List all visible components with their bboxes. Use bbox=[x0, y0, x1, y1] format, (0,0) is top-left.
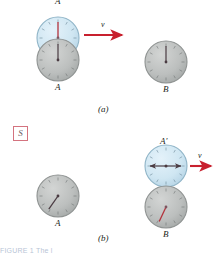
clock-label-a-prime: A' bbox=[160, 136, 167, 146]
clock-label-a-top: A bbox=[55, 0, 61, 6]
clock-label-b-bottom: B bbox=[163, 229, 169, 239]
caption-text: FIGURE 1 The l bbox=[0, 247, 213, 254]
velocity-label-a: v bbox=[101, 20, 105, 29]
panel-label-a: (a) bbox=[98, 104, 109, 114]
rest-clock-b-bottom bbox=[145, 186, 187, 228]
physics-figure-clocks: A v A B (a) S A' v A B (b) FIGURE 1 The … bbox=[0, 0, 213, 254]
panel-label-b: (b) bbox=[98, 233, 109, 243]
moving-clock-a-prime bbox=[145, 145, 187, 187]
clock-label-a-rest: A bbox=[55, 82, 61, 92]
clock-label-b-rest: B bbox=[163, 84, 169, 94]
rest-clock-a-bottom bbox=[37, 175, 79, 217]
figure-canvas bbox=[0, 0, 213, 254]
rest-clock-a bbox=[37, 39, 79, 81]
velocity-label-b: v bbox=[198, 151, 202, 160]
clock-label-a-bottom: A bbox=[55, 218, 61, 228]
reference-frame-badge-s: S bbox=[13, 126, 28, 141]
rest-clock-b bbox=[145, 41, 187, 83]
figure-caption-fragment: FIGURE 1 The l bbox=[0, 247, 213, 254]
